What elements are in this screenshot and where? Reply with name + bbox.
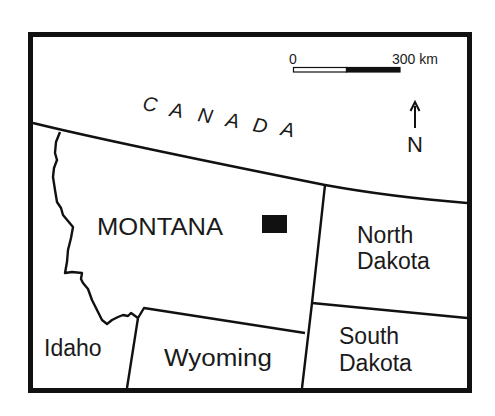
north-dakota-label-line1: North (357, 222, 413, 248)
scale-bar-black-segment (347, 68, 401, 73)
scale-start-label: 0 (289, 51, 297, 67)
montana-label: MONTANA (97, 213, 223, 240)
south-dakota-label-line1: South (339, 323, 399, 349)
idaho-label: Idaho (44, 335, 102, 361)
north-label: N (407, 132, 423, 157)
study-site-marker (262, 215, 287, 233)
north-dakota-label-line2: Dakota (357, 248, 430, 274)
south-dakota-label-line2: Dakota (339, 350, 412, 376)
scale-end-label: 300 km (392, 51, 438, 67)
wyoming-label: Wyoming (164, 345, 272, 371)
scale-bar-white-segment (294, 68, 347, 73)
map-figure: 0 300 km N C A N A D A MONTANA North Dak… (0, 0, 495, 416)
